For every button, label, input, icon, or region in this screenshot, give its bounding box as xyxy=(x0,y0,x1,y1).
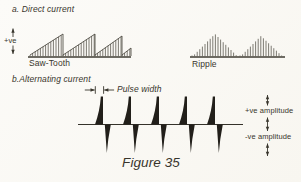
negative-amplitude-label: -ve amplitude xyxy=(245,132,291,141)
amplitude-arrows-icon xyxy=(266,95,269,156)
positive-amplitude-label: +ve amplitude xyxy=(245,106,293,115)
section-a-heading: a. Direct current xyxy=(12,4,74,14)
positive-axis-label: +ve xyxy=(4,36,17,45)
figure-caption: Figure 35 xyxy=(95,155,207,170)
ripple-label: Ripple xyxy=(192,59,217,69)
figure-35-diagram: a. Direct current +ve Saw-Tooth Ripple b… xyxy=(0,0,301,182)
sawtooth-waveform xyxy=(28,34,131,57)
pulse-width-label: Pulse width xyxy=(117,84,162,94)
pulse-width-arrows-icon xyxy=(85,86,114,94)
sawtooth-label: Saw-Tooth xyxy=(29,58,70,68)
pulse-train-waveform xyxy=(78,97,243,154)
ripple-waveform xyxy=(190,34,285,57)
section-b-heading: b.Alternating current xyxy=(12,74,91,84)
